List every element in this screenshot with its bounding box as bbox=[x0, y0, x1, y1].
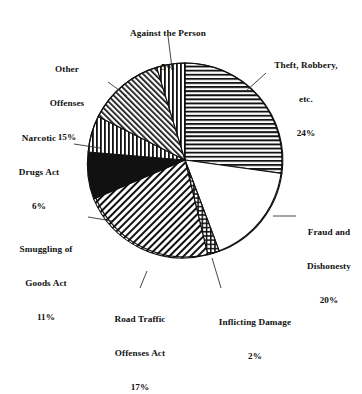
leader-line-road-traffic bbox=[140, 271, 147, 288]
pie-label-road-traffic-value: 17% bbox=[88, 382, 192, 393]
pie-label-theft-robbery-name: Theft, Robbery, bbox=[254, 60, 358, 71]
pie-label-narcotic-drugs: Narcotic Drugs Act 6% bbox=[4, 111, 74, 234]
pie-label-smuggling-goods: Smuggling of Goods Act 11% bbox=[2, 222, 90, 345]
pie-label-narcotic-drugs-name2: Drugs Act bbox=[4, 167, 74, 178]
pie-label-narcotic-drugs-value: 6% bbox=[4, 201, 74, 212]
leader-line-inflicting-damage bbox=[212, 258, 221, 288]
pie-label-fraud-dishonesty-name: Fraud and bbox=[296, 227, 362, 238]
pie-label-theft-robbery-name2: etc. bbox=[254, 94, 358, 105]
pie-label-other-offenses-name2: Offenses bbox=[24, 98, 110, 109]
pie-label-against-the-person-value: 5% bbox=[100, 62, 236, 73]
pie-label-against-the-person: Against the Person 5% bbox=[100, 6, 236, 96]
pie-label-fraud-dishonesty-value: 20% bbox=[296, 295, 362, 306]
pie-label-fraud-dishonesty-name2: Dishonesty bbox=[296, 261, 362, 272]
pie-label-smuggling-goods-name: Smuggling of bbox=[2, 244, 90, 255]
pie-label-smuggling-goods-value: 11% bbox=[2, 312, 90, 323]
pie-label-other-offenses-name: Other bbox=[24, 64, 110, 75]
pie-label-road-traffic-name2: Offenses Act bbox=[88, 348, 192, 359]
pie-label-smuggling-goods-name2: Goods Act bbox=[2, 278, 90, 289]
pie-label-inflicting-damage-value: 2% bbox=[196, 351, 314, 362]
pie-label-narcotic-drugs-name: Narcotic bbox=[4, 133, 74, 144]
pie-label-theft-robbery: Theft, Robbery, etc. 24% bbox=[254, 38, 358, 161]
pie-label-road-traffic-name: Road Traffic bbox=[88, 314, 192, 325]
pie-label-road-traffic: Road Traffic Offenses Act 17% bbox=[88, 292, 192, 394]
pie-label-fraud-dishonesty: Fraud and Dishonesty 20% bbox=[296, 205, 362, 328]
pie-label-against-the-person-name: Against the Person bbox=[100, 28, 236, 39]
pie-label-theft-robbery-value: 24% bbox=[254, 128, 358, 139]
